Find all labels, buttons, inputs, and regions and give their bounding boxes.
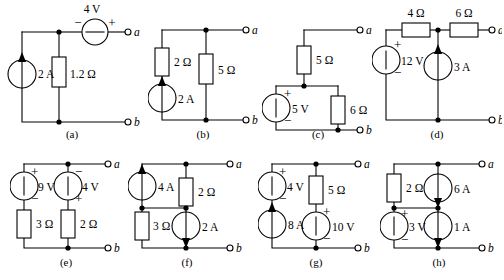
source-5v-label-c: 5 V (292, 103, 309, 115)
caption-f: (f) (128, 256, 246, 268)
polarity-plus-g-right: + (323, 204, 330, 219)
polarity-plus-d: + (394, 37, 401, 52)
polarity-plus-e-left: + (31, 164, 38, 179)
circuit-h: 2 Ω + − 3 V 6 A 1 A a b (h) (380, 150, 498, 262)
source-4v-label-g: 4 V (287, 181, 304, 193)
caption-d: (d) (372, 128, 502, 140)
terminal-a-label-h: a (488, 158, 494, 170)
source-3v-label-h: 3 V (409, 221, 426, 233)
resistor-5ohm-label-b: 5 Ω (218, 64, 235, 76)
terminal-b-label-h: b (488, 242, 494, 254)
circuit-b: 2 Ω 2 A 5 Ω a b (b) (148, 12, 258, 134)
resistor-12ohm-label-a: 1.2 Ω (70, 68, 96, 80)
resistor-5ohm-label-g: 5 Ω (328, 184, 345, 196)
terminal-b-label-a: b (134, 116, 140, 128)
circuit-a: 4 V − + 2 A 1.2 Ω a b (a) (4, 2, 140, 134)
polarity-minus-g-left: − (279, 191, 286, 206)
caption-g: (g) (258, 256, 374, 268)
polarity-minus-h: − (401, 232, 408, 247)
caption-c: (c) (262, 128, 374, 140)
source-8a-label-g: 8 A (288, 219, 305, 231)
polarity-plus-a: + (108, 15, 115, 30)
resistor-3ohm-label-e: 3 Ω (36, 218, 53, 230)
terminal-a-label-d: a (498, 24, 502, 36)
circuit-g: + − 4 V 8 A 5 Ω + − 10 V a b (g) (258, 150, 374, 262)
polarity-minus-e-mid: − (75, 164, 82, 179)
caption-e: (e) (10, 256, 122, 268)
polarity-minus-a: − (74, 15, 81, 30)
source-1a-label-h: 1 A (454, 221, 471, 233)
resistor-5ohm-label-c: 5 Ω (316, 54, 333, 66)
polarity-minus-d: − (394, 65, 401, 80)
resistor-2ohm-label-b: 2 Ω (174, 56, 191, 68)
caption-a: (a) (4, 128, 140, 140)
source-10v-label-g: 10 V (332, 221, 355, 233)
resistor-3ohm-label-f: 3 Ω (153, 220, 170, 232)
source-2a-label-f: 2 A (202, 221, 219, 233)
terminal-a-label-g: a (364, 158, 370, 170)
source-6a-label-h: 6 A (454, 183, 471, 195)
polarity-plus-c: + (284, 86, 291, 101)
circuit-e: + − 9 V 3 Ω − + 4 V 2 Ω a b (e) (10, 150, 122, 262)
resistor-2ohm-label-e: 2 Ω (80, 218, 97, 230)
polarity-plus-h: + (401, 206, 408, 221)
terminal-a-label-e: a (114, 158, 120, 170)
circuit-figure: 4 V − + 2 A 1.2 Ω a b (a) (0, 0, 504, 280)
resistor-2ohm-label-h: 2 Ω (406, 182, 423, 194)
source-12v-label-d: 12 V (401, 55, 424, 67)
polarity-minus-e-left: − (31, 191, 38, 206)
source-9v-label-e: 9 V (38, 181, 55, 193)
source-4a-label-f: 4 A (158, 181, 175, 193)
resistor-2ohm-label-f: 2 Ω (198, 186, 215, 198)
caption-b: (b) (148, 128, 258, 140)
source-4v-label-a: 4 V (84, 3, 101, 15)
polarity-plus-g-left: + (279, 164, 286, 179)
source-4v-label-e: 4 V (82, 181, 99, 193)
resistor-6ohm-label-d: 6 Ω (455, 7, 472, 19)
polarity-minus-c: − (284, 113, 291, 128)
source-2a-label-a: 2 A (38, 68, 55, 80)
terminal-b-label-e: b (114, 242, 120, 254)
polarity-minus-g-right: − (323, 231, 330, 246)
terminal-a-label-b: a (252, 24, 258, 36)
terminal-b-label-b: b (252, 114, 258, 126)
resistor-4ohm-label-d: 4 Ω (407, 7, 424, 19)
circuit-c: 5 Ω + − 5 V 6 Ω a b (c) (262, 12, 374, 134)
caption-h: (h) (380, 256, 498, 268)
terminal-b-label-g: b (364, 242, 370, 254)
resistor-6ohm-label-c: 6 Ω (350, 104, 367, 116)
source-2a-label-b: 2 A (178, 93, 195, 105)
terminal-a-label-f: a (236, 158, 242, 170)
polarity-plus-e-mid: + (75, 191, 82, 206)
circuit-f: 4 A 3 Ω 2 Ω 2 A a b (f) (128, 150, 246, 262)
terminal-a-label-a: a (134, 26, 140, 38)
circuit-d: 4 Ω 6 Ω + − 12 V 3 A a b (d) (372, 6, 502, 134)
terminal-b-label-d: b (498, 114, 502, 126)
source-3a-label-d: 3 A (454, 61, 471, 73)
terminal-b-label-f: b (236, 242, 242, 254)
